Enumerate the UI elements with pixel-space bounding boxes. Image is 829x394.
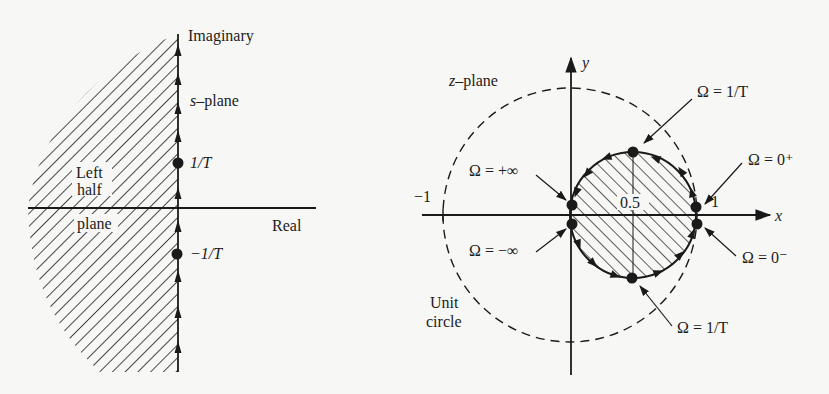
imaginary-axis-label: Imaginary (188, 28, 254, 44)
annotation-omega-zero-minus: Ω = 0⁻ (742, 250, 787, 266)
annotation-omega-minus-inf: Ω = −∞ (469, 243, 518, 259)
tick-one-label: 1 (711, 194, 719, 210)
point-neg-1-over-T-label: −1/T (190, 246, 222, 262)
tick-half-label: 0.5 (620, 195, 640, 211)
point-omega-minus-inf (567, 219, 578, 230)
left-half-plane-label-line2: half (77, 182, 102, 198)
point-1-over-T-label: 1/T (190, 155, 211, 171)
unit-circle-label-line2: circle (426, 314, 462, 330)
s-plane-diagram (28, 34, 316, 372)
unit-circle-label-line1: Unit (430, 295, 458, 311)
left-half-plane-region (28, 34, 178, 372)
point-omega-top (628, 147, 639, 158)
point-omega-zero-minus (692, 219, 703, 230)
annotation-omega-plus-inf: Ω = +∞ (469, 163, 518, 179)
point-omega-bottom (627, 273, 638, 284)
s-plane-suffix: –plane (196, 92, 239, 109)
point-omega-plus-inf (567, 200, 578, 211)
bilinear-transform-figure: Imaginary s–plane 1/T Left half plane Re… (0, 0, 829, 394)
y-axis-label: y (582, 55, 589, 71)
left-half-plane-label-line3: plane (77, 216, 112, 232)
tick-neg-one-label: −1 (414, 189, 431, 205)
s-plane-label: s–plane (190, 93, 239, 109)
point-omega-zero-plus (691, 202, 702, 213)
left-half-plane-label-line1: Left (76, 165, 103, 181)
x-axis-label: x (775, 208, 782, 224)
real-axis-label: Real (272, 218, 301, 234)
point-neg-1-over-T (172, 249, 183, 260)
annotation-omega-zero-plus: Ω = 0⁺ (748, 152, 793, 168)
annotation-omega-top: Ω = 1/T (697, 84, 748, 100)
annotation-omega-bottom: Ω = 1/T (677, 320, 728, 336)
z-plane-label: z–plane (449, 73, 498, 89)
point-1-over-T (173, 158, 184, 169)
z-plane-suffix: –plane (455, 72, 498, 89)
